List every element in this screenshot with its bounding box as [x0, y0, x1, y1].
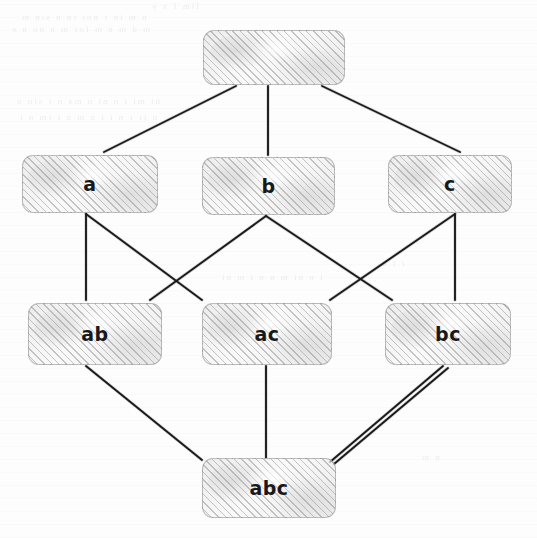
- lattice-node-a[interactable]: a: [22, 155, 158, 213]
- diagram-edge: [322, 86, 460, 152]
- lattice-node-ac[interactable]: ac: [202, 303, 332, 365]
- lattice-node-bc[interactable]: bc: [385, 303, 511, 365]
- lattice-node-b[interactable]: b: [202, 157, 335, 215]
- diagram-edge: [150, 216, 266, 300]
- node-label: [203, 30, 345, 85]
- node-label: bc: [385, 303, 511, 365]
- lattice-node-c[interactable]: c: [388, 155, 512, 213]
- node-label: a: [22, 155, 158, 213]
- lattice-node-abc[interactable]: abc: [202, 458, 336, 518]
- diagram-edge: [266, 216, 392, 300]
- node-label: ac: [202, 303, 332, 365]
- node-label: ab: [28, 303, 162, 365]
- node-label: c: [388, 155, 512, 213]
- node-label: b: [202, 157, 335, 215]
- diagram-canvas: lim f x yn m in r not rn n sin mm d m n …: [0, 0, 537, 538]
- lattice-node-empty[interactable]: [203, 30, 345, 85]
- diagram-edge: [104, 86, 236, 152]
- diagram-edge: [334, 368, 448, 464]
- lattice-node-ab[interactable]: ab: [28, 303, 162, 365]
- diagram-edge: [330, 214, 455, 300]
- diagram-edge: [86, 214, 202, 300]
- diagram-edge: [330, 366, 443, 462]
- node-label: abc: [202, 458, 336, 518]
- diagram-edge: [86, 366, 202, 460]
